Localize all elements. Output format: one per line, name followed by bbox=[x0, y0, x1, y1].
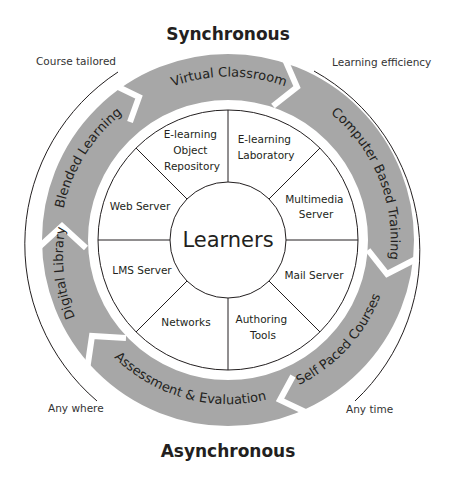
asynchronous-title: Asynchronous bbox=[161, 441, 296, 461]
cell-mail-server: Mail Server bbox=[284, 269, 344, 281]
cell-networks: Networks bbox=[161, 316, 210, 328]
synchronous-title: Synchronous bbox=[166, 24, 290, 44]
cell-lms-server: LMS Server bbox=[112, 264, 172, 276]
cell-web-server: Web Server bbox=[110, 200, 171, 212]
label-course-tailored: Course tailored bbox=[36, 55, 116, 67]
elearning-diagram: Synchronous Asynchronous Course tailored… bbox=[0, 0, 458, 480]
label-learning-efficiency: Learning efficiency bbox=[332, 56, 431, 68]
learners-label: Learners bbox=[182, 228, 273, 252]
label-any-where: Any where bbox=[48, 402, 104, 414]
label-any-time: Any time bbox=[346, 403, 393, 415]
